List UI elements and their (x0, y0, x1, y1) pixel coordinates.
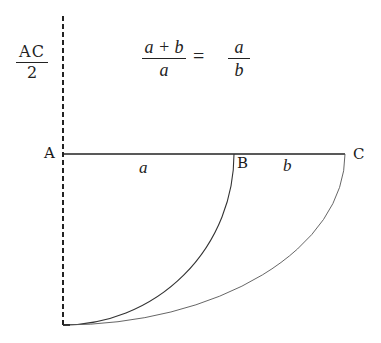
point-c-label: C (353, 147, 365, 162)
segment-b-label: b (283, 157, 292, 174)
diagram-drawing (0, 0, 381, 343)
golden-ratio-diagram: AC 2 a + b a = a b A B C a b (0, 0, 381, 343)
equation-right-denominator: b (233, 61, 246, 79)
arc-to-b (63, 154, 234, 325)
equation-left-fraction: a + b a (142, 38, 186, 79)
half-ac-denominator: 2 (25, 65, 39, 81)
equation-left-denominator: a (158, 61, 171, 79)
equals-sign: = (193, 45, 204, 68)
equation-right-fraction: a b (228, 38, 250, 79)
equation-left-numerator: a + b (142, 38, 185, 56)
fraction-bar (228, 58, 250, 59)
half-ac-numerator: AC (17, 44, 47, 60)
segment-a-label: a (139, 159, 148, 176)
point-a-label: A (44, 146, 55, 161)
arc-to-c (63, 154, 345, 325)
half-ac-fraction: AC 2 (16, 44, 48, 81)
point-b-label: B (237, 156, 249, 171)
equation-right-numerator: a (233, 38, 246, 56)
fraction-bar (142, 58, 186, 59)
